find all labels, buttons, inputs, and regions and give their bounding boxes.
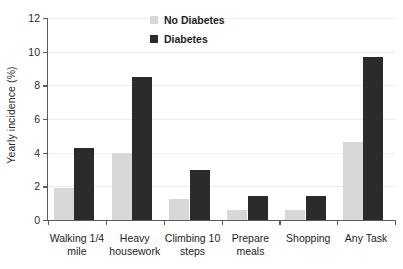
x-axis-label: Heavyhousework <box>109 232 160 257</box>
y-tick-label: 8 <box>34 79 40 91</box>
legend-item: No Diabetes <box>150 12 225 27</box>
bar-chart-figure: Yearly incidence (%) 024681012 Walking 1… <box>0 0 403 269</box>
y-axis-title: Yearly incidence (%) <box>5 66 17 163</box>
y-tick-label: 12 <box>28 12 40 24</box>
bar-no-diabetes <box>169 199 189 220</box>
legend-swatch-icon <box>150 35 158 43</box>
bar-no-diabetes <box>54 188 74 220</box>
y-axis-title-container: Yearly incidence (%) <box>0 0 22 230</box>
legend-swatch-icon <box>150 16 158 24</box>
legend-item: Diabetes <box>150 31 225 46</box>
y-tick-label: 2 <box>34 180 40 192</box>
x-axis-label: Climbing 10steps <box>165 232 220 257</box>
bar-no-diabetes <box>285 210 305 220</box>
x-axis-label: Preparemeals <box>232 232 269 257</box>
gridline <box>48 119 395 120</box>
bar-no-diabetes <box>343 142 363 220</box>
bar-no-diabetes <box>112 153 132 220</box>
y-tick-label: 6 <box>34 113 40 125</box>
legend-label: No Diabetes <box>164 14 225 26</box>
y-axis-line <box>47 18 48 220</box>
bar-diabetes <box>363 57 383 220</box>
gridline <box>48 52 395 53</box>
x-axis-label: Any Task <box>345 232 387 245</box>
x-tick-mark <box>395 220 396 225</box>
x-axis-label: Walking 1/4mile <box>50 232 104 257</box>
y-tick-label: 0 <box>34 214 40 226</box>
y-tick-label: 4 <box>34 147 40 159</box>
gridline <box>48 85 395 86</box>
x-axis-line <box>47 220 395 221</box>
bar-diabetes <box>132 77 152 220</box>
bar-diabetes <box>190 170 210 221</box>
bar-diabetes <box>248 196 268 220</box>
y-tick-label: 10 <box>28 46 40 58</box>
chart-legend: No DiabetesDiabetes <box>150 12 225 50</box>
bar-no-diabetes <box>227 210 247 220</box>
legend-label: Diabetes <box>164 33 208 45</box>
bar-diabetes <box>306 196 326 220</box>
bar-diabetes <box>74 148 94 220</box>
x-axis-label: Shopping <box>286 232 330 245</box>
